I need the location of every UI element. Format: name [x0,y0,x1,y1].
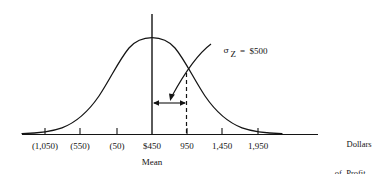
x-tick-label-6: 1,450 [212,142,232,151]
normal-distribution-figure: (1,050) (550) (50) $450 950 1,450 1,950 … [0,0,385,174]
axis-title-line-2: of Profit [335,169,383,175]
axis-title-stack: Dollars of Profit (in thousands) [335,121,383,174]
x-tick-label-3: (50) [110,142,125,151]
x-tick-label-5: 950 [180,142,194,151]
sigma-span-arrow [153,100,186,106]
sigma-subscript-z: Z [229,49,236,59]
x-tick-label-7: 1,950 [248,142,268,151]
sigma-value: = $500 [236,46,268,56]
x-tick-label-2: (550) [70,142,90,151]
arrowhead-right [180,100,186,106]
x-tick-label-4-mean: $450 [143,142,161,151]
axis-title-line-1: Dollars [335,140,383,150]
mean-caption: Mean [142,158,163,167]
leader-arrowhead [169,94,175,101]
x-tick-label-1: (1,050) [32,142,58,151]
x-axis-title: (Z) Dollars of Profit (in thousands) [322,121,383,174]
arrowhead-left [153,100,159,106]
sigma-z-annotation: σZ= $500 [214,37,268,69]
sigma-leader-line [169,44,211,101]
